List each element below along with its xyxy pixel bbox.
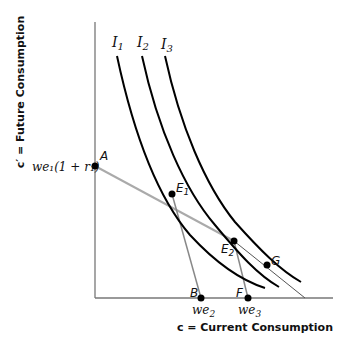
point-G	[264, 262, 271, 269]
curve-label-I2: I2	[136, 34, 149, 52]
point-label-B: B	[190, 286, 198, 300]
indifference-curve-1	[117, 56, 265, 288]
line-E1-B	[172, 194, 201, 298]
x-axis-label: c = Current Consumption	[177, 321, 333, 334]
consumption-diagram: I1 I2 I3 A E1 E2 G B F we2 we3 we₁(1 + r…	[0, 0, 351, 347]
point-F	[245, 295, 252, 302]
point-label-G: G	[271, 254, 280, 268]
x-tick-we2: we2	[192, 303, 215, 319]
y-intercept-label: we₁(1 + r₁)	[32, 160, 100, 174]
point-label-F: F	[236, 286, 244, 300]
point-B	[198, 295, 205, 302]
budget-line-thin	[234, 241, 305, 298]
point-E1	[169, 191, 176, 198]
indifference-curve-2	[142, 56, 279, 287]
y-axis-label: c′ = Future Consumption	[14, 16, 27, 169]
x-tick-we3: we3	[238, 303, 261, 319]
curve-label-I1: I1	[111, 34, 124, 52]
point-label-A: A	[99, 149, 108, 163]
curve-label-I3: I3	[160, 36, 173, 54]
point-E2	[231, 238, 238, 245]
budget-line-AE2	[95, 166, 234, 241]
